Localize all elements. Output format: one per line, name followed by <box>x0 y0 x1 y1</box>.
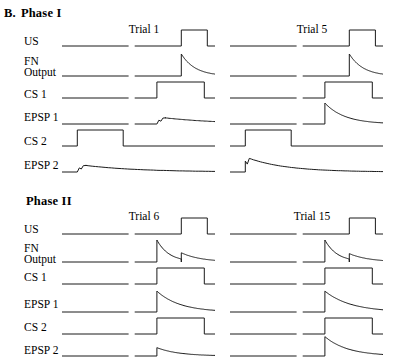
signal-trace <box>230 82 383 98</box>
signal-trace <box>230 240 383 262</box>
signal-trace <box>62 130 215 146</box>
signal-trace <box>62 54 215 76</box>
signal-trace <box>62 218 215 234</box>
signal-trace <box>230 268 383 284</box>
signal-trace <box>62 82 215 98</box>
signal-trace <box>62 240 215 262</box>
signal-trace <box>230 30 383 46</box>
signal-trace <box>62 118 215 124</box>
signal-trace <box>62 318 215 334</box>
signal-trace <box>230 337 383 356</box>
signal-trace-layer <box>0 0 396 358</box>
signal-trace <box>230 318 383 334</box>
signal-trace <box>230 218 383 234</box>
signal-trace <box>62 268 215 284</box>
signal-trace <box>62 165 215 172</box>
signal-trace <box>230 54 383 76</box>
signal-trace <box>62 348 215 356</box>
signal-trace <box>230 103 383 124</box>
signal-trace <box>62 291 215 312</box>
signal-trace <box>230 291 383 312</box>
figure-panel-b: B.Phase I Trial 1 Trial 5 US FN Output C… <box>0 0 396 358</box>
signal-trace <box>230 130 383 146</box>
signal-trace <box>62 30 215 46</box>
signal-trace <box>230 158 383 172</box>
